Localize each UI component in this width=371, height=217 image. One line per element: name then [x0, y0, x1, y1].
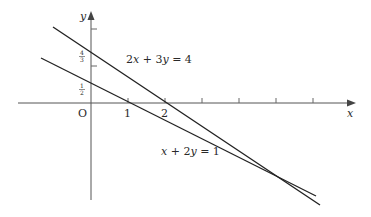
y-axis: [88, 11, 98, 200]
x-tick-label-2: 2: [161, 107, 168, 120]
svg-text:1: 1: [80, 82, 84, 89]
graph-canvas: y x O 1 2 1 2 4 3 2x + 3y = 4 x + 2y = 1: [0, 0, 371, 217]
x-axis-arrow-icon: [347, 100, 356, 107]
y-tick-label-half: 1 2: [79, 82, 85, 96]
y-axis-arrow-icon: [88, 11, 95, 20]
y-ticks: [91, 29, 97, 66]
y-axis-label: y: [79, 10, 87, 23]
svg-text:4: 4: [80, 49, 84, 56]
equation-label-2x-3y-4: 2x + 3y = 4: [126, 53, 192, 66]
x-axis-label: x: [347, 107, 354, 120]
svg-text:2: 2: [80, 89, 84, 96]
y-tick-label-four-thirds: 4 3: [79, 49, 85, 63]
equation-label-x-2y-1: x + 2y = 1: [161, 145, 220, 158]
origin-label: O: [78, 107, 87, 120]
svg-text:3: 3: [80, 56, 84, 63]
x-tick-label-1: 1: [124, 107, 131, 120]
x-axis: [18, 98, 356, 107]
x-ticks: [128, 98, 313, 103]
line-x-2y-1: [41, 58, 316, 196]
